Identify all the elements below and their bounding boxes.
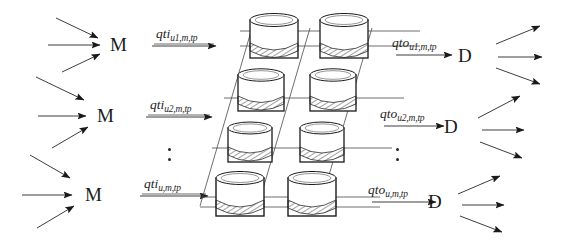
tank bbox=[310, 69, 356, 111]
inflow-label-2-subscript: u2,m,tp bbox=[164, 104, 191, 114]
inflow-arrows bbox=[140, 46, 216, 196]
outflow-label-1-base: qto bbox=[392, 35, 409, 50]
inflow-label-2-base: qti bbox=[150, 97, 164, 112]
tank bbox=[216, 172, 264, 217]
ellipsis-dot bbox=[168, 148, 171, 151]
tank bbox=[300, 122, 344, 162]
sink-node-d-1: D bbox=[458, 46, 472, 65]
inflow-label-1-base: qti bbox=[156, 26, 170, 41]
outflow-label-3-base: qto bbox=[368, 182, 385, 197]
inflow-label-2: qtiu2,m,tp bbox=[150, 98, 191, 112]
outflow-label-1-subscript: u1,m,tp bbox=[409, 42, 436, 52]
tank bbox=[288, 172, 336, 217]
source-node-m-3: M bbox=[85, 185, 102, 204]
outflow-label-2-subscript: u2,m,tp bbox=[397, 113, 424, 123]
outflow-label-2-base: qto bbox=[380, 106, 397, 121]
diagram-vector-layer bbox=[0, 0, 568, 246]
tank bbox=[320, 14, 368, 59]
tank bbox=[228, 122, 272, 162]
inflow-label-1: qtiu1,m,tp bbox=[156, 27, 197, 41]
ellipsis-dot bbox=[168, 158, 171, 161]
inflow-ellipsis bbox=[168, 148, 171, 161]
sink-node-d-2: D bbox=[444, 117, 458, 136]
outflow-label-3-subscript: u,m,tp bbox=[385, 189, 408, 199]
outflow-label-1: qtou1,m,tp bbox=[392, 36, 436, 50]
source-node-m-2: M bbox=[97, 106, 114, 125]
tank bbox=[238, 69, 284, 111]
ellipsis-dot bbox=[396, 148, 399, 151]
flow-label-rules bbox=[142, 44, 214, 194]
outflow-label-3: qtou,m,tp bbox=[368, 183, 408, 197]
outflow-arrows bbox=[372, 55, 452, 202]
outflow-ellipsis bbox=[396, 148, 399, 161]
inflow-label-3: qtiu,m,tp bbox=[144, 177, 181, 191]
diagram-canvas: M M M qtiu1,m,tp qtiu2,m,tp qtiu,m,tp qt… bbox=[0, 0, 568, 246]
inflow-label-3-subscript: u,m,tp bbox=[158, 183, 181, 193]
tank bbox=[250, 14, 298, 59]
source-node-m-1: M bbox=[110, 35, 127, 54]
sink-node-d-3: D bbox=[428, 192, 442, 211]
outflow-label-2: qtou2,m,tp bbox=[380, 107, 424, 121]
ellipsis-dot bbox=[396, 158, 399, 161]
inflow-label-3-base: qti bbox=[144, 176, 158, 191]
inflow-label-1-subscript: u1,m,tp bbox=[170, 33, 197, 43]
